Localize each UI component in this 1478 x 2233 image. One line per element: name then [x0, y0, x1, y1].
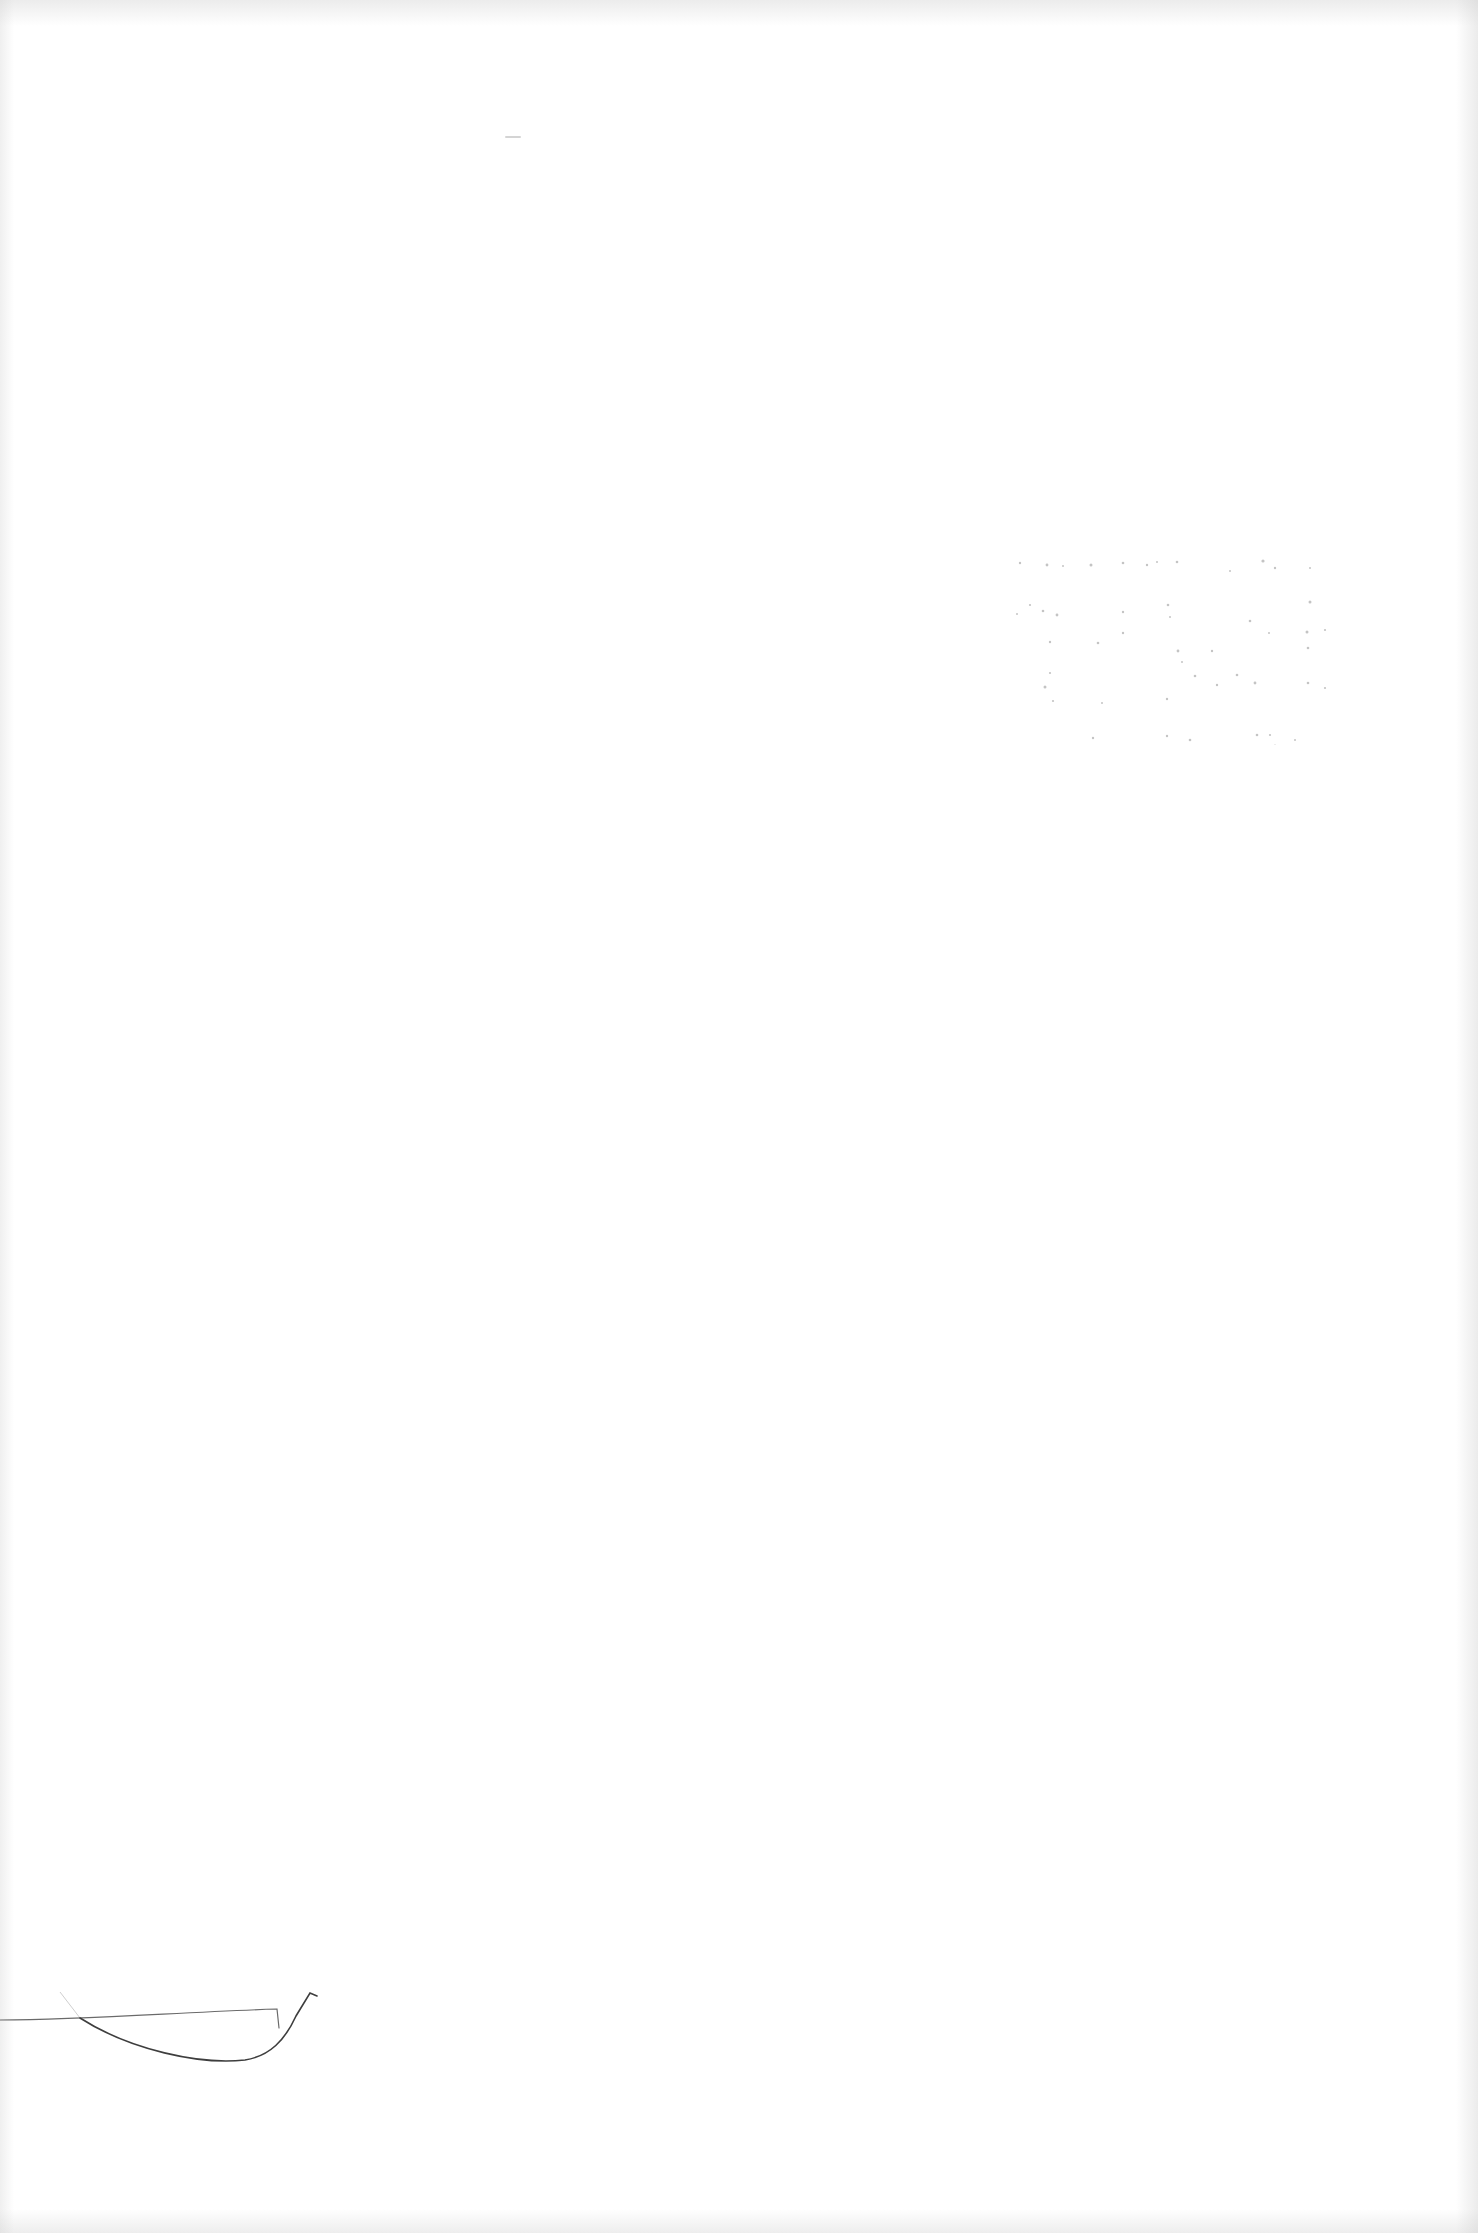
handwritten-stroke	[0, 1960, 340, 2070]
scan-edge-right	[1456, 0, 1478, 2233]
scan-edge-left	[0, 0, 14, 2233]
scanned-page	[0, 0, 1478, 2233]
scan-edge-bottom	[0, 2209, 1478, 2233]
bleed-through-speckles	[995, 535, 1340, 745]
stray-mark	[505, 136, 521, 138]
scan-edge-top	[0, 0, 1478, 26]
